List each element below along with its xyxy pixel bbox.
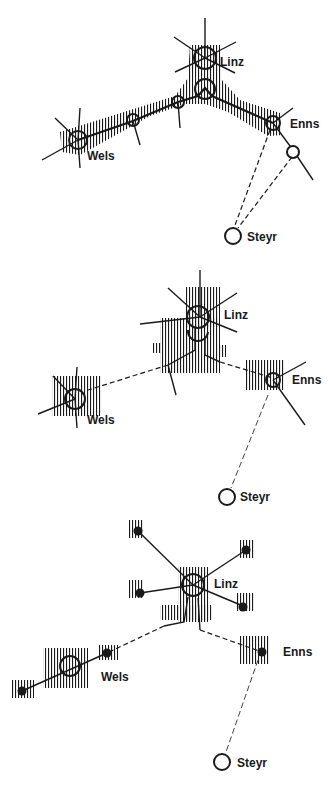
linz-label: Linz [214, 577, 238, 591]
satellite-dot [239, 603, 248, 612]
linz-label: Linz [220, 55, 244, 69]
wels-label: Wels [87, 149, 115, 163]
enns-label: Enns [283, 645, 313, 659]
enns-label: Enns [290, 117, 320, 131]
satellite-node [287, 146, 299, 158]
satellite-dot [242, 546, 251, 555]
panel-2: Linz Wels Enns Steyr [38, 270, 322, 505]
satellite-dot [18, 687, 27, 696]
satellite-dot [134, 527, 143, 536]
enns-label: Enns [292, 373, 322, 387]
panel-3: Linz Wels Enns Steyr [12, 520, 313, 770]
satellite-dot [136, 589, 145, 598]
steyr-node [214, 754, 230, 770]
steyr-node [219, 489, 235, 505]
linz-label: Linz [224, 308, 248, 322]
wels-label: Wels [101, 670, 129, 684]
settlement-diagram: Linz Wels Enns Steyr [0, 0, 328, 785]
steyr-label: Steyr [240, 490, 270, 504]
steyr-node [225, 228, 241, 244]
steyr-label: Steyr [247, 230, 277, 244]
wels-label: Wels [87, 413, 115, 427]
hatched-corridor [60, 45, 282, 155]
panel-1: Linz Wels Enns Steyr [42, 18, 320, 244]
enns-dot [258, 648, 267, 657]
satellite-dot [103, 649, 112, 658]
steyr-label: Steyr [237, 756, 267, 770]
